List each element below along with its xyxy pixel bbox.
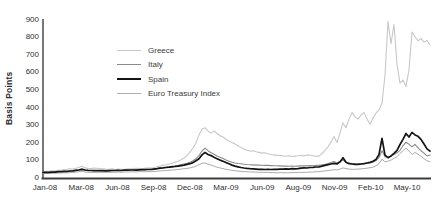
- series-line-spain: [43, 132, 430, 172]
- legend-line-swatch: [117, 78, 141, 80]
- legend-line-swatch: [117, 64, 141, 65]
- legend-line-swatch: [117, 50, 141, 51]
- y-tick-label: 700: [26, 50, 40, 59]
- x-tick-label: May-10: [394, 183, 421, 192]
- y-axis-title: Basis Points: [3, 19, 15, 177]
- y-tick-label: 100: [26, 155, 40, 164]
- legend-label: Spain: [148, 75, 168, 84]
- y-tick-label: 500: [26, 85, 40, 94]
- series-line-greece: [43, 22, 430, 172]
- plot-area: 0100200300400500600700800900Jan-08Mar-08…: [0, 0, 440, 205]
- y-tick-label: 200: [26, 138, 40, 147]
- legend: GreeceItalySpainEuro Treasury Index: [117, 43, 220, 101]
- legend-item: Spain: [117, 72, 220, 87]
- x-tick-label: Feb-10: [358, 183, 384, 192]
- legend-label: Euro Treasury Index: [148, 89, 220, 98]
- x-tick-label: Dec-08: [177, 183, 203, 192]
- y-tick-label: 900: [26, 15, 40, 24]
- legend-label: Greece: [148, 46, 174, 55]
- y-tick-label: 300: [26, 120, 40, 129]
- legend-line-swatch: [117, 93, 141, 94]
- y-tick-label: 600: [26, 67, 40, 76]
- y-tick-label: 400: [26, 103, 40, 112]
- y-tick-label: 800: [26, 32, 40, 41]
- x-tick-label: Nov-09: [322, 183, 348, 192]
- x-tick-label: Mar-08: [69, 183, 95, 192]
- x-tick-label: Jan-08: [33, 183, 58, 192]
- spread-chart: 0100200300400500600700800900Jan-08Mar-08…: [0, 0, 440, 205]
- x-tick-label: Sep-08: [141, 183, 167, 192]
- legend-label: Italy: [148, 60, 163, 69]
- legend-item: Italy: [117, 58, 220, 73]
- legend-item: Euro Treasury Index: [117, 87, 220, 102]
- y-tick-label: 0: [35, 173, 40, 182]
- legend-item: Greece: [117, 43, 220, 58]
- x-tick-label: Jun-09: [250, 183, 275, 192]
- x-tick-label: Mar-09: [213, 183, 239, 192]
- x-tick-label: Jun-08: [105, 183, 130, 192]
- x-tick-label: Aug-09: [286, 183, 312, 192]
